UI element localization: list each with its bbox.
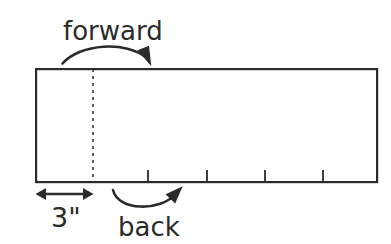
dimension-arrow-head-right: [83, 188, 94, 200]
forward-arrow-head: [139, 47, 151, 65]
back-arrow: [113, 188, 182, 207]
diagram-svg: forward back 3": [0, 0, 391, 244]
dimension-arrow-head-left: [36, 188, 47, 200]
dimension-arrow: [36, 188, 94, 200]
dimension-label: 3": [51, 202, 81, 233]
forward-arrow: [63, 47, 151, 65]
diagram-canvas: forward back 3": [0, 0, 391, 244]
forward-arrow-shaft: [63, 47, 148, 64]
forward-label: forward: [63, 16, 163, 46]
back-label: back: [118, 212, 180, 242]
back-arrow-shaft: [113, 190, 177, 207]
board-outline: [36, 69, 377, 182]
